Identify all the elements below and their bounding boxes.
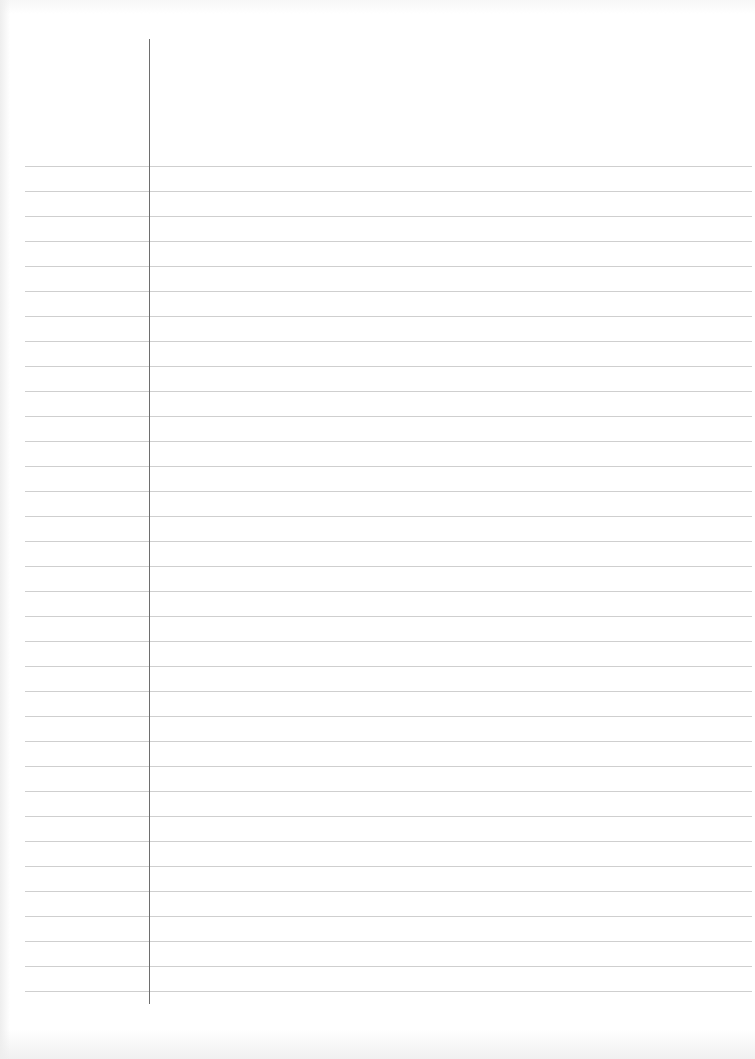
ruled-line [25, 766, 752, 767]
ruled-line [25, 616, 752, 617]
ruled-line [25, 341, 752, 342]
ruled-line [25, 966, 752, 967]
ruled-line [25, 691, 752, 692]
ruled-line [25, 441, 752, 442]
ruled-line [25, 166, 752, 167]
ruled-line [25, 991, 752, 992]
ruled-line [25, 791, 752, 792]
ruled-line [25, 366, 752, 367]
ruled-line [25, 316, 752, 317]
ruled-line [25, 916, 752, 917]
ruled-line [25, 241, 752, 242]
ruled-line [25, 416, 752, 417]
page-edge-shadow [0, 0, 10, 1059]
ruled-line [25, 191, 752, 192]
margin-line [149, 39, 150, 1004]
notebook-page [0, 0, 755, 1059]
ruled-line [25, 841, 752, 842]
ruled-line [25, 816, 752, 817]
ruled-line [25, 891, 752, 892]
ruled-line [25, 866, 752, 867]
ruled-line [25, 216, 752, 217]
ruled-line [25, 566, 752, 567]
ruled-line [25, 641, 752, 642]
ruled-line [25, 391, 752, 392]
ruled-line [25, 666, 752, 667]
ruled-line [25, 541, 752, 542]
ruled-line [25, 741, 752, 742]
ruled-line [25, 266, 752, 267]
ruled-line [25, 466, 752, 467]
ruled-line [25, 941, 752, 942]
ruled-line [25, 291, 752, 292]
ruled-line [25, 716, 752, 717]
ruled-line [25, 491, 752, 492]
ruled-line [25, 591, 752, 592]
ruled-line [25, 516, 752, 517]
